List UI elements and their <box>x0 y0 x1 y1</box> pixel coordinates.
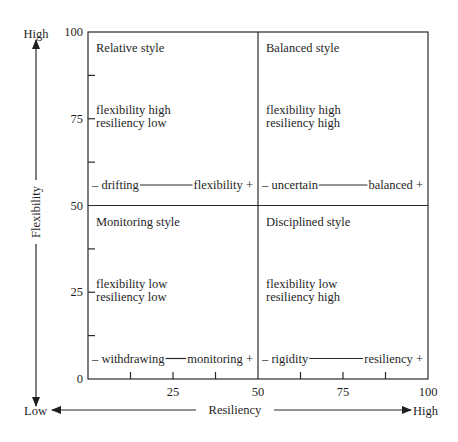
quadrants: Relative styleflexibility highresiliency… <box>91 41 423 366</box>
scale-low-label: – rigidity <box>261 352 309 366</box>
quadrant-title: Monitoring style <box>96 215 180 229</box>
x-axis-tick-labels: 255075100 <box>167 385 438 399</box>
scale-high-label: resiliency + <box>364 352 423 366</box>
quadrant-disciplined: Disciplined styleflexibility lowresilien… <box>261 215 423 366</box>
quadrant-title: Balanced style <box>266 41 340 55</box>
quadrant-chart: 0255075100 255075100 High Flexibility Lo… <box>0 0 458 442</box>
x-axis-low-label: Low <box>24 404 47 418</box>
scale-low-label: – withdrawing <box>91 352 165 366</box>
x-axis-title: Resiliency <box>209 403 263 417</box>
quadrant-description: resiliency high <box>266 290 341 304</box>
quadrant-description: resiliency low <box>96 290 166 304</box>
scale-high-label: balanced + <box>368 178 423 192</box>
quadrant-description: flexibility high <box>96 103 171 117</box>
y-tick-label: 50 <box>71 199 84 213</box>
x-tick-label: 100 <box>419 385 438 399</box>
quadrant-description: flexibility low <box>266 277 337 291</box>
y-tick-label: 75 <box>71 112 84 126</box>
quadrant-balanced: Balanced styleflexibility highresiliency… <box>261 41 423 192</box>
quadrant-monitoring: Monitoring styleflexibility lowresilienc… <box>91 215 253 366</box>
scale-high-label: flexibility + <box>194 178 253 192</box>
y-axis-tick-labels: 0255075100 <box>64 25 83 386</box>
x-tick-label: 75 <box>337 385 350 399</box>
y-tick-label: 25 <box>71 285 84 299</box>
quadrant-description: resiliency high <box>266 116 341 130</box>
quadrant-description: resiliency low <box>96 116 166 130</box>
quadrant-description: flexibility high <box>266 103 341 117</box>
x-tick-label: 50 <box>252 385 265 399</box>
y-tick-label: 100 <box>64 25 83 39</box>
scale-high-label: monitoring + <box>187 352 253 366</box>
y-tick-label: 0 <box>77 372 83 386</box>
quadrant-title: Disciplined style <box>266 215 351 229</box>
y-axis-title: Flexibility <box>29 185 43 238</box>
quadrant-relative: Relative styleflexibility highresiliency… <box>91 41 253 192</box>
x-tick-label: 25 <box>167 385 180 399</box>
x-axis-high-label: High <box>413 404 439 418</box>
quadrant-description: flexibility low <box>96 277 167 291</box>
scale-low-label: – uncertain <box>261 178 319 192</box>
scale-low-label: – drifting <box>91 178 140 192</box>
quadrant-title: Relative style <box>96 41 165 55</box>
y-axis-high-label: High <box>24 27 50 41</box>
